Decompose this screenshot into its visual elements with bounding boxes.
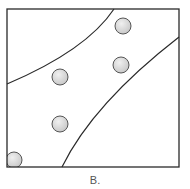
- ball-circle: [52, 69, 68, 85]
- figure-label: B.: [0, 174, 190, 186]
- ball-circle: [6, 152, 22, 168]
- circles-group: [6, 18, 131, 168]
- ball-circle: [113, 57, 129, 73]
- ball-circle: [115, 18, 131, 34]
- ball-circle: [52, 116, 68, 132]
- curves-group: [7, 9, 179, 167]
- lower-boundary-curve: [62, 37, 179, 167]
- diagram-figure: [0, 0, 190, 189]
